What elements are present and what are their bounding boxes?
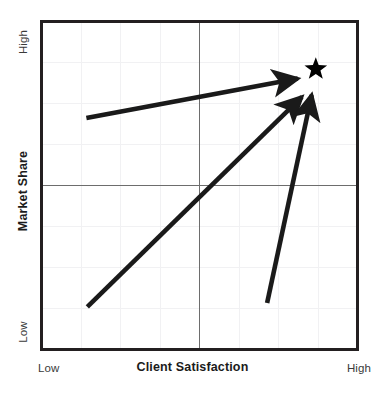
quadrant-chart: High Low Market Share Low High Client Sa… xyxy=(0,0,385,396)
x-axis-title: Client Satisfaction xyxy=(0,360,385,374)
y-axis-low-label: Low xyxy=(17,321,29,342)
y-axis-high-label: High xyxy=(17,30,29,54)
y-axis-title-wrap: Market Share xyxy=(10,136,36,246)
y-axis-low-label-wrap: Low xyxy=(10,312,36,352)
plot-area-svg xyxy=(0,0,385,396)
y-axis-high-label-wrap: High xyxy=(10,22,36,62)
y-axis-title: Market Share xyxy=(16,151,30,231)
